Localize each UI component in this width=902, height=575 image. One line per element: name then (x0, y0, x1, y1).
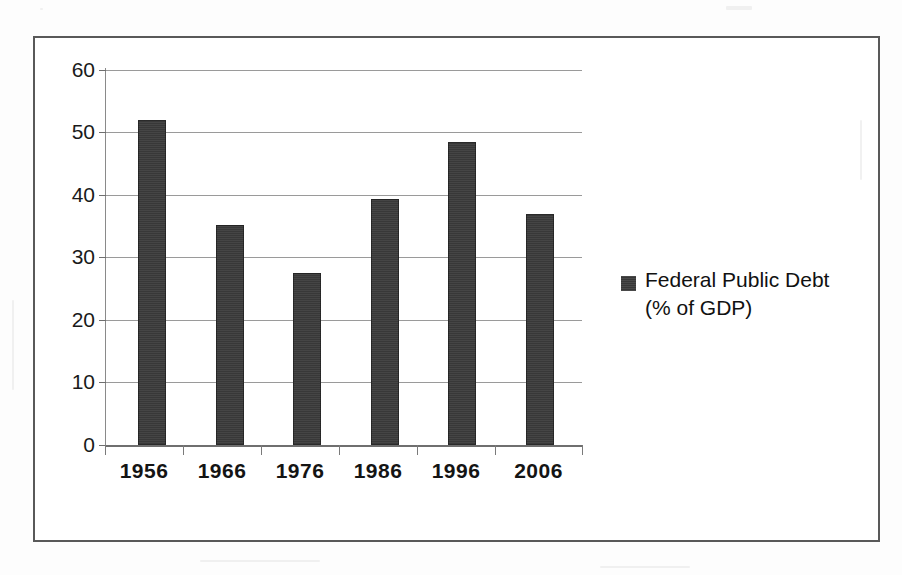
plot-area (106, 70, 582, 445)
y-axis-label-40: 40 (39, 184, 95, 205)
bar-2006[interactable] (526, 214, 554, 445)
y-tick-10 (99, 382, 106, 383)
bar-1996[interactable] (448, 142, 476, 445)
x-tick-start (105, 445, 106, 455)
y-axis-label-30: 30 (39, 246, 95, 267)
x-tick-4 (417, 445, 418, 455)
bar-1986[interactable] (371, 199, 399, 445)
x-axis-label-1976: 1976 (261, 460, 339, 481)
y-axis-label-50: 50 (39, 121, 95, 142)
y-tick-40 (99, 195, 106, 196)
x-tick-2 (261, 445, 262, 455)
x-tick-end (582, 445, 583, 455)
y-tick-20 (99, 320, 106, 321)
x-axis-label-1956: 1956 (105, 460, 183, 481)
scan-artifact (726, 6, 752, 10)
gridline-30 (106, 257, 582, 258)
bar-1956[interactable] (138, 120, 166, 445)
x-axis-label-2006: 2006 (495, 460, 582, 481)
legend-label-line1: Federal Public Debt (645, 266, 871, 294)
x-axis-label-1966: 1966 (183, 460, 261, 481)
gridline-40 (106, 195, 582, 196)
scan-artifact (600, 566, 690, 568)
y-axis-label-0: 0 (39, 434, 95, 455)
bar-1976[interactable] (293, 273, 321, 445)
scan-artifact (860, 120, 862, 180)
x-axis-label-1986: 1986 (339, 460, 417, 481)
chart-legend[interactable]: Federal Public Debt (% of GDP) (621, 266, 871, 322)
scan-artifact (200, 560, 320, 562)
y-tick-30 (99, 257, 106, 258)
chart-frame: 60 50 40 30 20 10 0 1956 1966 1976 1986 … (33, 36, 880, 542)
x-axis-label-1996: 1996 (417, 460, 495, 481)
gridline-50 (106, 132, 582, 133)
y-tick-60 (99, 70, 106, 71)
scan-artifact (40, 8, 43, 10)
bar-1966[interactable] (216, 225, 244, 445)
legend-label-line2: (% of GDP) (645, 294, 871, 322)
gridline-10 (106, 382, 582, 383)
category-axis-line (105, 445, 583, 447)
x-tick-1 (183, 445, 184, 455)
gridline-20 (106, 320, 582, 321)
gridline-60 (106, 70, 582, 71)
y-tick-50 (99, 132, 106, 133)
x-tick-5 (495, 445, 496, 455)
scanned-page-background: 60 50 40 30 20 10 0 1956 1966 1976 1986 … (0, 0, 902, 575)
x-tick-3 (339, 445, 340, 455)
y-axis-label-10: 10 (39, 371, 95, 392)
scan-artifact (12, 300, 14, 390)
value-axis-labels: 60 50 40 30 20 10 0 (35, 38, 95, 540)
y-axis-label-20: 20 (39, 309, 95, 330)
series-color-swatch-icon (621, 276, 636, 291)
y-axis-label-60: 60 (39, 59, 95, 80)
